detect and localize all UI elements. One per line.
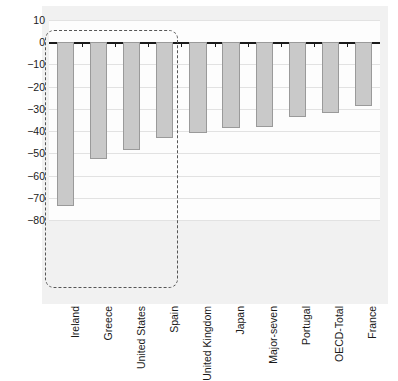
bar[interactable] [123,42,140,150]
bar[interactable] [256,42,273,126]
x-axis-tick [248,42,249,47]
bar[interactable] [289,42,306,116]
x-axis-category-label: Japan [235,306,246,335]
x-axis-tick [314,42,315,47]
x-axis-labels: IrelandGreeceUnited StatesSpainUnited Ki… [49,222,380,308]
y-axis-tick-label: −30 [5,104,45,115]
bar-series [49,20,380,220]
y-axis-tick-label: −60 [5,170,45,181]
y-axis-tick-label: −10 [5,59,45,70]
gridline [49,220,380,221]
y-axis-tick-label: −20 [5,81,45,92]
y-axis-tick-label: 0 [5,37,45,48]
y-axis-tick-label: −70 [5,193,45,204]
bar[interactable] [156,42,173,138]
x-axis-category-label: Spain [169,306,180,333]
x-axis-tick [215,42,216,47]
bar[interactable] [355,42,372,105]
bar[interactable] [90,42,107,159]
x-axis-tick [148,42,149,47]
y-axis-tick-label: 10 [5,15,45,26]
y-axis-tick-label: −40 [5,126,45,137]
x-axis-category-label: United States [136,306,147,369]
x-axis-category-label: Major-seven [268,306,279,364]
x-axis-tick [181,42,182,47]
x-axis-tick [347,42,348,47]
x-axis-category-label: Portugal [301,306,312,345]
bar[interactable] [222,42,239,128]
x-axis-category-label: OECD-Total [334,306,345,362]
x-axis-category-label: United Kingdom [202,306,213,381]
x-axis-tick [281,42,282,47]
bar[interactable] [189,42,206,133]
y-axis: 100−10−20−30−40−50−60−70−80 [0,20,45,220]
x-axis-category-label: Greece [103,306,114,340]
y-axis-tick-label: −50 [5,148,45,159]
bar[interactable] [57,42,74,205]
y-axis-tick-label: −80 [5,215,45,226]
x-axis-tick [82,42,83,47]
x-axis-category-label: France [367,306,378,339]
bar[interactable] [322,42,339,113]
x-axis-tick [115,42,116,47]
x-axis-category-label: Ireland [70,306,81,338]
